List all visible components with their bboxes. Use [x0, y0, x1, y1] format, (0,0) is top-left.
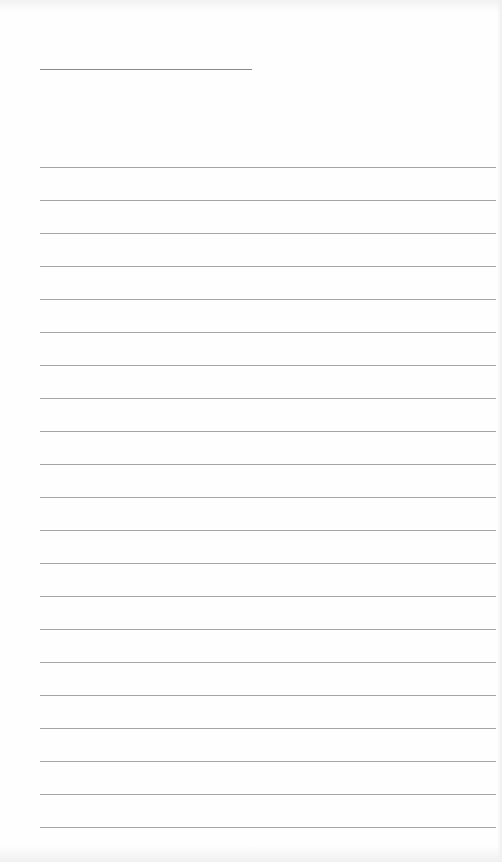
ruled-line — [40, 365, 496, 366]
ruled-line — [40, 629, 496, 630]
lined-page — [0, 0, 502, 862]
scan-edge-right — [497, 0, 502, 862]
ruled-line — [40, 662, 496, 663]
ruled-line — [40, 497, 496, 498]
ruled-line — [40, 299, 496, 300]
ruled-line — [40, 398, 496, 399]
ruled-line — [40, 827, 496, 828]
ruled-line — [40, 233, 496, 234]
ruled-line — [40, 266, 496, 267]
ruled-line — [40, 200, 496, 201]
ruled-line — [40, 728, 496, 729]
ruled-line — [40, 332, 496, 333]
scan-edge-bottom — [0, 846, 502, 862]
title-line — [40, 69, 252, 70]
scan-edge-top — [0, 0, 502, 12]
ruled-line — [40, 794, 496, 795]
ruled-line — [40, 563, 496, 564]
ruled-line — [40, 530, 496, 531]
ruled-line — [40, 695, 496, 696]
ruled-line — [40, 596, 496, 597]
ruled-line — [40, 431, 496, 432]
ruled-line — [40, 464, 496, 465]
ruled-line — [40, 167, 496, 168]
ruled-line — [40, 761, 496, 762]
